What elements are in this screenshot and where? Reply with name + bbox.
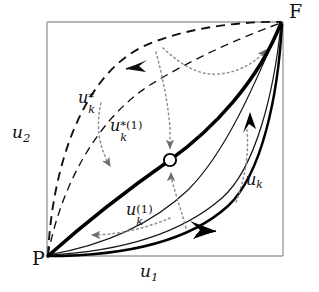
dotted-arc-left-mid [98, 103, 110, 166]
dotted-arc-group-upper [98, 48, 266, 166]
arrowhead-optimal-up [243, 112, 256, 133]
figure-canvas: P F u2 u1 u*k u*(1)k uk u(1)k [0, 0, 319, 292]
curve-label-u-star-k-1: u*(1)k [110, 118, 144, 134]
dotted-arc-up-to-node [171, 173, 186, 228]
curve-label-u-k: uk [246, 172, 263, 191]
corner-label-p: P [32, 249, 45, 268]
open-circle-node[interactable] [164, 154, 176, 166]
curve-label-u-star-k: u*k [78, 90, 96, 106]
axis-label-u2: u2 [12, 124, 30, 144]
corner-label-f: F [289, 2, 302, 21]
diagram-svg [0, 0, 319, 292]
dotted-arc-low-left [92, 218, 170, 235]
dotted-arc-to-f [163, 48, 266, 74]
axis-label-u1: u1 [140, 263, 158, 283]
dotted-arc-down-to-node [156, 52, 170, 148]
curve-label-u-k-1: u(1)k [126, 202, 156, 218]
